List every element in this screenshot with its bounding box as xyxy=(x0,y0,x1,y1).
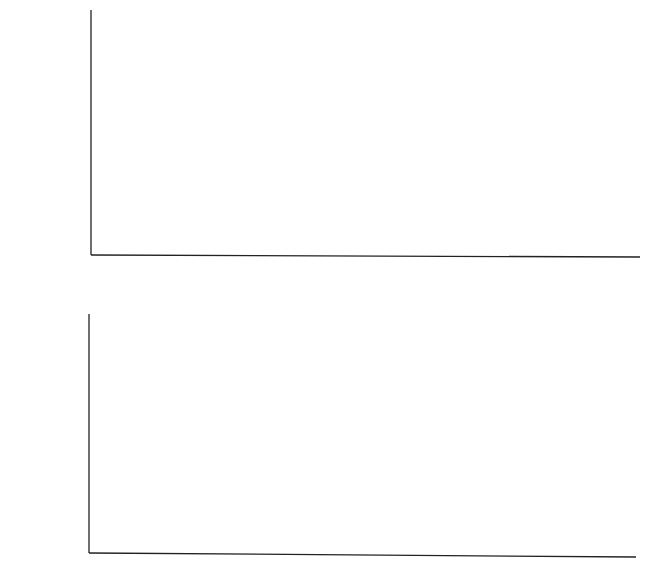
chart-figure xyxy=(0,0,658,580)
valve-panel xyxy=(89,314,636,557)
valve-x-axis xyxy=(89,553,636,557)
temperature-panel xyxy=(91,10,640,257)
temperature-x-axis xyxy=(91,255,640,257)
